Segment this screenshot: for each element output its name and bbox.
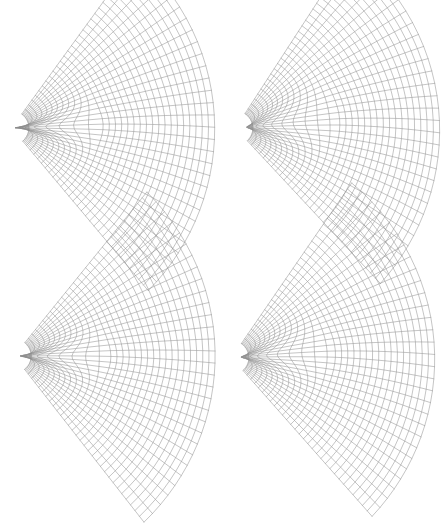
mesh-panel-bottom-left	[18, 190, 217, 524]
mesh-grid-lines	[20, 192, 215, 522]
mesh-panel-bottom-right	[239, 181, 437, 518]
mesh-grid-lines	[241, 183, 435, 516]
